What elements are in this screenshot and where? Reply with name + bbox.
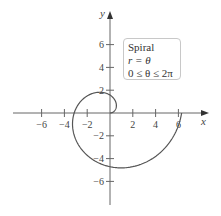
- y-axis-label: y: [99, 7, 105, 19]
- y-tick-label: −2: [93, 130, 104, 141]
- x-tick-label: 2: [130, 119, 135, 130]
- x-axis-label: x: [200, 115, 206, 127]
- y-tick-label: −6: [93, 176, 104, 187]
- y-axis-arrow-icon: [107, 11, 113, 19]
- x-tick-label: −4: [59, 119, 70, 130]
- x-tick-label: 4: [153, 119, 158, 130]
- legend-equation: r = θ: [128, 54, 176, 67]
- y-tick-label: 2: [99, 85, 104, 96]
- x-tick-label: −2: [82, 119, 93, 130]
- legend-title: Spiral: [128, 41, 176, 54]
- y-tick-label: 6: [99, 39, 104, 50]
- plot-area: −6−4−2246−6−4−2246 x y: [0, 0, 221, 216]
- y-tick-label: 4: [99, 62, 104, 73]
- legend-box: Spiral r = θ 0 ≤ θ ≤ 2π: [123, 38, 181, 80]
- spiral-curve: [73, 92, 182, 168]
- x-tick-label: −6: [36, 119, 47, 130]
- legend-domain: 0 ≤ θ ≤ 2π: [128, 67, 176, 80]
